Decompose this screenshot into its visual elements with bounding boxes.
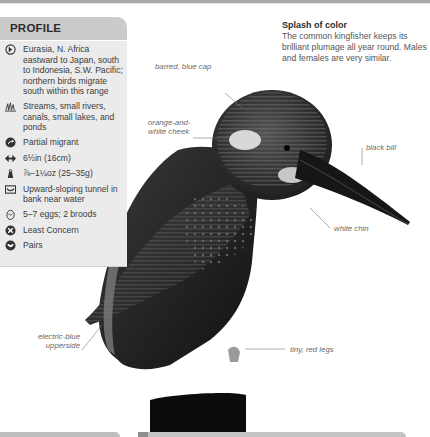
nest-icon <box>3 184 17 195</box>
next-panel-tab <box>138 432 148 437</box>
profile-item-social: Pairs <box>3 240 123 251</box>
profile-item-eggs: 5–7 eggs; 2 broods <box>3 209 123 220</box>
profile-title: PROFILE <box>0 17 127 41</box>
profile-item-length: 6½in (16cm) <box>3 153 123 164</box>
profile-item-text: Streams, small rivers, canals, small lak… <box>23 101 123 133</box>
profile-item-migration: Partial migrant <box>3 137 123 148</box>
profile-item-text: Least Concern <box>23 225 79 236</box>
annotation-cap: barred, blue cap <box>155 62 225 71</box>
profile-item-habitat: Streams, small rivers, canals, small lak… <box>3 101 123 133</box>
annotation-cheek: orange-and-white cheek <box>148 118 196 136</box>
profile-item-text: Upward-sloping tunnel in bank near water <box>23 184 123 205</box>
profile-item-text: 5–7 eggs; 2 broods <box>23 209 97 220</box>
next-panel-right-edge <box>138 432 406 437</box>
intro-title: Splash of color <box>282 20 427 31</box>
social-pairs-icon <box>3 240 17 251</box>
weight-icon <box>3 168 17 179</box>
migration-arrow-icon <box>3 137 17 148</box>
profile-item-text: Pairs <box>23 240 43 251</box>
profile-item-text: Partial migrant <box>23 137 78 148</box>
next-panel-left-edge <box>0 432 120 437</box>
habitat-grass-icon <box>3 101 17 112</box>
profile-panel: PROFILE Eurasia, N. Africa eastward to J… <box>0 17 127 267</box>
egg-icon <box>3 209 17 220</box>
profile-item-text: ⅞–1¼oz (25–35g) <box>23 168 93 179</box>
intro-body: The common kingfisher keeps its brillian… <box>282 31 427 64</box>
profile-item-status: Least Concern <box>3 225 123 236</box>
length-arrows-icon <box>3 153 17 164</box>
intro-section: Splash of color The common kingfisher ke… <box>282 20 427 64</box>
profile-list: Eurasia, N. Africa eastward to Japan, so… <box>0 41 127 251</box>
profile-item-text: Eurasia, N. Africa eastward to Japan, so… <box>23 44 123 97</box>
conservation-status-icon <box>3 225 17 236</box>
profile-item-nest: Upward-sloping tunnel in bank near water <box>3 184 123 205</box>
annotation-upperside: electric-blue upperside <box>20 332 80 350</box>
annotation-bill: black bill <box>366 143 416 152</box>
profile-item-range: Eurasia, N. Africa eastward to Japan, so… <box>3 44 123 97</box>
annotation-chin: white chin <box>334 224 384 233</box>
globe-range-icon <box>3 44 17 55</box>
annotation-legs: tiny, red legs <box>290 345 360 354</box>
profile-item-weight: ⅞–1¼oz (25–35g) <box>3 168 123 179</box>
profile-item-text: 6½in (16cm) <box>23 153 71 164</box>
